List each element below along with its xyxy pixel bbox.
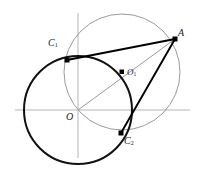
label-point-o1: O1 (127, 68, 136, 78)
label-point-a: A (178, 28, 184, 38)
segment-a-c1 (67, 39, 175, 60)
label-point-c2: C2 (124, 136, 134, 146)
figure-canvas (0, 0, 198, 173)
geometry-figure: A C1 C2 O O1 (0, 0, 198, 173)
label-point-c1: C1 (48, 38, 58, 48)
point-c2-marker (119, 131, 124, 136)
point-o1-marker (120, 70, 125, 75)
point-a-marker (173, 37, 178, 42)
point-c1-marker (65, 58, 70, 63)
label-point-o: O (66, 112, 73, 122)
segment-a-c2 (121, 39, 175, 133)
